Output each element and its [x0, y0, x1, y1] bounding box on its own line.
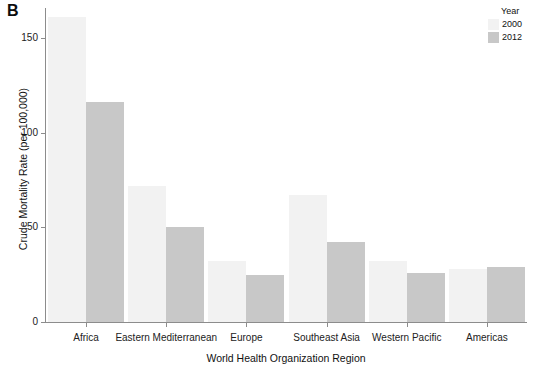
x-tick-mark [487, 323, 488, 327]
legend-swatch [488, 19, 499, 30]
legend-swatch [488, 32, 499, 43]
bar [369, 261, 407, 322]
bar [48, 17, 86, 322]
bars-layer [0, 0, 534, 322]
x-tick-label: Americas [427, 332, 534, 344]
legend-label: 2012 [502, 32, 522, 43]
bar [128, 186, 166, 322]
y-tick-mark [41, 322, 46, 323]
x-tick-mark [86, 323, 87, 327]
bar [407, 273, 445, 322]
legend-entry: 2000 [488, 18, 534, 30]
bar [327, 242, 365, 322]
x-tick-mark [246, 323, 247, 327]
legend-entries: 20002012 [488, 18, 534, 43]
bar [166, 227, 204, 322]
x-tick-mark [166, 323, 167, 327]
bar [208, 261, 246, 322]
legend: Year 20002012 [488, 6, 534, 44]
bar [449, 269, 487, 322]
bar [246, 275, 284, 322]
x-tick-mark [407, 323, 408, 327]
bar [289, 195, 327, 322]
figure-panel-b: B Crude Mortality Rate (per 100,000) Wor… [0, 0, 534, 371]
bar [487, 267, 525, 322]
x-axis-line [45, 322, 527, 323]
x-axis-title: World Health Organization Region [45, 352, 527, 364]
bar [86, 102, 124, 322]
legend-entry: 2012 [488, 31, 534, 43]
legend-title: Year [501, 6, 534, 16]
legend-label: 2000 [502, 19, 522, 30]
x-tick-mark [327, 323, 328, 327]
